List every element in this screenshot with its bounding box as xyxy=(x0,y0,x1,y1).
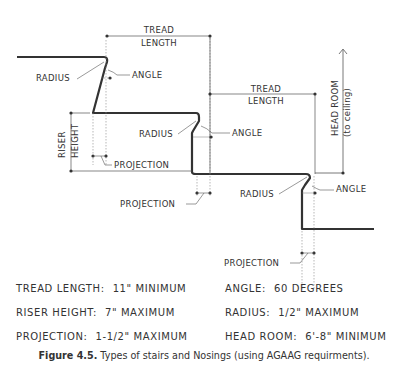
angle-3-leader xyxy=(312,186,334,190)
angle-dot xyxy=(209,135,212,138)
dimension-dot xyxy=(69,169,72,172)
dimension-dot xyxy=(208,92,211,95)
req-riser-height: RISER HEIGHT:7" MAXIMUM xyxy=(16,307,175,318)
head-room-label-line2: (to ceiling) xyxy=(342,88,352,137)
angle-dot xyxy=(108,76,111,79)
projection-1-label: PROJECTION xyxy=(114,160,169,170)
tread-length-1-label-line1: TREAD xyxy=(143,25,174,35)
stair-nosing-diagram: TREAD LENGTH TREAD LENGTH HEAD ROOM (to … xyxy=(0,0,408,371)
angle-2-label: ANGLE xyxy=(232,128,262,138)
projection-2-leader xyxy=(186,193,204,204)
tread-length-1-dimension xyxy=(107,36,210,174)
radius-1-leader xyxy=(77,62,104,79)
radius-3-label: RADIUS xyxy=(240,189,274,199)
projection-3-leader xyxy=(290,253,308,263)
figure-caption: Figure 4.5. Types of stairs and Nosings … xyxy=(0,350,408,361)
req-tread-length: TREAD LENGTH:11" MINIMUM xyxy=(15,283,186,294)
head-room-label-line1: HEAD ROOM xyxy=(330,80,340,136)
angle-1-leader xyxy=(108,70,130,75)
req-angle: ANGLE:60 DEGREES xyxy=(225,283,344,294)
figure-caption-text: Types of stairs and Nosings (using AGAAG… xyxy=(97,350,369,361)
riser-height-label-line2: HEIGHT xyxy=(70,123,80,158)
dimension-dot xyxy=(208,34,211,37)
projection-2-label: PROJECTION xyxy=(120,199,175,209)
projection-3-label: PROJECTION xyxy=(224,258,279,268)
req-head-room: HEAD ROOM:6'-8" MINIMUM xyxy=(225,331,387,342)
dimension-dot xyxy=(105,34,108,37)
dimension-dot xyxy=(341,171,344,174)
dimension-dot xyxy=(313,92,316,95)
angle-2-leader xyxy=(201,126,230,133)
tread-length-1-label-line2: LENGTH xyxy=(141,38,177,48)
tread-length-2-label-line1: TREAD xyxy=(250,84,281,94)
req-radius: RADIUS:1/2" MAXIMUM xyxy=(225,307,359,318)
riser-height-label-line1: RISER xyxy=(57,131,67,158)
radius-2-label: RADIUS xyxy=(139,129,173,139)
angle-1-label: ANGLE xyxy=(132,70,162,80)
tread-length-2-dimension xyxy=(210,94,315,174)
radius-1-label: RADIUS xyxy=(36,73,70,83)
angle-3-label: ANGLE xyxy=(336,184,366,194)
tread-length-2-label-line2: LENGTH xyxy=(248,96,284,106)
requirements-list: TREAD LENGTH:11" MINIMUM ANGLE:60 DEGREE… xyxy=(15,283,387,342)
figure-number: Figure 4.5. xyxy=(39,350,98,361)
angle-dot xyxy=(313,191,316,194)
req-projection: PROJECTION:1-1/2" MAXIMUM xyxy=(16,331,188,342)
dimension-dot xyxy=(69,111,72,114)
